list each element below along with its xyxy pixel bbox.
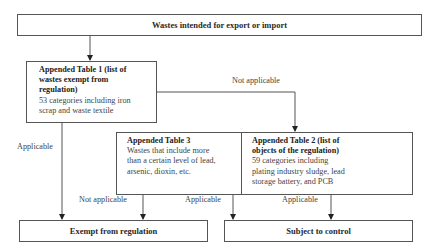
exempt-node: Exempt from regulation [19,220,208,242]
table1-title-line: regulation) [39,85,156,95]
table3-node: Appended Table 3 Wastes that include mor… [117,133,241,194]
exempt-node-label: Exempt from regulation [70,226,158,236]
table3-title: Appended Table 3 [127,136,241,146]
tables-2-3-group: Appended Table 3 Wastes that include mor… [116,132,413,195]
table2-title-line: objects of the regulation) [252,146,412,156]
edge-label-t3-not-applicable: Not applicable [79,195,127,204]
table2-body-line: plating industry sludge, lead [252,167,412,177]
table1-body-line: 53 categories including iron [39,96,156,106]
edge-label-t2-applicable: Applicable [282,195,318,204]
table2-body-line: 59 categories including [252,156,412,166]
start-node-label: Wastes intended for export or import [152,20,287,30]
table2-body-line: storage battery, and PCB [252,177,412,187]
table1-node: Appended Table 1 (list of wastes exempt … [26,61,157,123]
edge-label-t1-applicable: Applicable [17,142,53,151]
table1-title-line: wastes exempt from [39,75,156,85]
table3-body-line: Wastes that include more [127,146,241,156]
edge-label-t1-not-applicable: Not applicable [232,76,280,85]
connector-lines [0,0,435,251]
start-node: Wastes intended for export or import [17,14,422,36]
table1-title-line: Appended Table 1 (list of [39,65,156,75]
subject-node: Subject to control [224,220,413,242]
table1-body-line: scrap and waste textile [39,106,156,116]
subject-node-label: Subject to control [286,226,351,236]
table2-node: Appended Table 2 (list of objects of the… [241,133,412,194]
table2-title-line: Appended Table 2 (list of [252,136,412,146]
table3-body-line: arsenic, dioxin, etc. [127,167,241,177]
edge-label-t3-applicable: Applicable [185,195,221,204]
table3-body-line: than a certain level of lead, [127,156,241,166]
